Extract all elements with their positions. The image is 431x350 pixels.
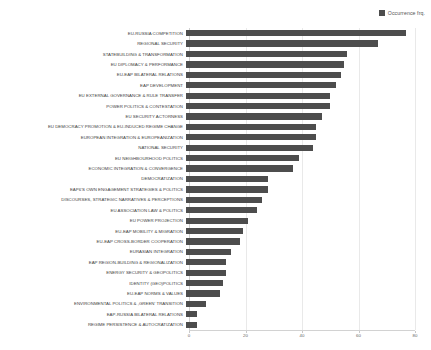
category-label: EU-EAP MOBILITY & MIGRATION: [0, 229, 186, 234]
category-label: ENVIRONMENTAL POLITICS & ,GREEN' TRANSIT…: [0, 301, 186, 306]
bar: [186, 93, 330, 99]
bar-track: [186, 122, 431, 132]
legend-label: Occurrence frq.: [388, 10, 425, 16]
bar: [186, 228, 243, 234]
category-label: EAP REGION-BUILDING & REGIONALIZATION: [0, 260, 186, 265]
category-label: EURASIAN INTEGRATION: [0, 249, 186, 254]
category-label: ENERGY SECURITY & GEOPOLITICS: [0, 270, 186, 275]
bar-track: [186, 268, 431, 278]
category-label: REGIONAL SECURITY: [0, 41, 186, 46]
plot-area: EU-RUSSIA COMPETITIONREGIONAL SECURITYST…: [0, 28, 431, 330]
bar-track: [186, 299, 431, 309]
bar-track: [186, 111, 431, 121]
x-tick-label: 40: [300, 333, 305, 339]
bar: [186, 197, 262, 203]
bar-track: [186, 320, 431, 330]
bar-row: EU POWER PROJECTION: [0, 215, 431, 225]
bar: [186, 186, 268, 192]
category-label: EAP DEVELOPMENT: [0, 83, 186, 88]
bar-track: [186, 236, 431, 246]
category-label: EU DEMOCRACY PROMOTION & EU-INDUCED REGI…: [0, 124, 186, 129]
x-tick-label: 60: [356, 333, 361, 339]
bar: [186, 30, 406, 36]
bar-row: EAP6'S OWN ENGAGEMENT STRATEGIES & POLIT…: [0, 184, 431, 194]
bar-row: NATIONAL SECURITY: [0, 143, 431, 153]
bar-row: EAP REGION-BUILDING & REGIONALIZATION: [0, 257, 431, 267]
bar-row: EU-EAP BILATERAL RELATIONS: [0, 70, 431, 80]
category-label: EU NEIGHBOURHOOD POLITICS: [0, 156, 186, 161]
category-label: NATIONAL SECURITY: [0, 145, 186, 150]
bar-track: [186, 49, 431, 59]
bar: [186, 259, 226, 265]
bar-row: EURASIAN INTEGRATION: [0, 247, 431, 257]
bar-row: EU-EAP NORMS & VALUES: [0, 288, 431, 298]
x-axis: 020406080: [189, 330, 415, 344]
bar-row: REGIME PERSISTENCE & AUTOCRATIZATION: [0, 320, 431, 330]
bar-track: [186, 195, 431, 205]
bar: [186, 176, 268, 182]
category-label: EU POWER PROJECTION: [0, 218, 186, 223]
bar-track: [186, 247, 431, 257]
legend-swatch-icon: [379, 10, 385, 16]
bar: [186, 124, 316, 130]
category-label: EU-EAP CROSS-BORDER COOPERATION: [0, 239, 186, 244]
bar-row: ECONOMIC INTEGRATION & CONVERGENCE: [0, 163, 431, 173]
bar-row: EAP-RUSSIA BILATERAL RELATIONS: [0, 309, 431, 319]
bar-track: [186, 174, 431, 184]
bar-row: EUROPEAN INTEGRATION & EUROPEANIZATION: [0, 132, 431, 142]
bar-row: EU EXTERNAL GOVERNANCE & RULE TRANSFER: [0, 90, 431, 100]
bar: [186, 207, 257, 213]
bar-row: EAP DEVELOPMENT: [0, 80, 431, 90]
bar-row: EU-RUSSIA COMPETITION: [0, 28, 431, 38]
category-label: EU-EAP NORMS & VALUES: [0, 291, 186, 296]
x-tick-label: 0: [188, 333, 190, 339]
bar: [186, 238, 240, 244]
bar-track: [186, 38, 431, 48]
bar: [186, 280, 223, 286]
category-label: POWER POLITICS & CONTESTATION: [0, 104, 186, 109]
bar: [186, 134, 316, 140]
bar-row: EU-EAP CROSS-BORDER COOPERATION: [0, 236, 431, 246]
x-tick-label: 20: [243, 333, 248, 339]
bar: [186, 145, 313, 151]
bar-track: [186, 153, 431, 163]
bar: [186, 301, 206, 307]
bar-track: [186, 59, 431, 69]
bar-track: [186, 80, 431, 90]
bar: [186, 103, 330, 109]
bar-row: STATEBUILDING & TRANSFORMATION: [0, 49, 431, 59]
bar-row: ENVIRONMENTAL POLITICS & ,GREEN' TRANSIT…: [0, 299, 431, 309]
category-label: ECONOMIC INTEGRATION & CONVERGENCE: [0, 166, 186, 171]
category-label: EUROPEAN INTEGRATION & EUROPEANIZATION: [0, 135, 186, 140]
bar-row: EU DEMOCRACY PROMOTION & EU-INDUCED REGI…: [0, 122, 431, 132]
category-label: EU ASSOCIATION LAW & POLITICS: [0, 208, 186, 213]
bar: [186, 113, 322, 119]
bar-track: [186, 184, 431, 194]
bar: [186, 82, 336, 88]
category-label: REGIME PERSISTENCE & AUTOCRATIZATION: [0, 322, 186, 327]
category-label: EU SECURITY ACTORNESS: [0, 114, 186, 119]
bar: [186, 290, 220, 296]
x-tick-label: 80: [413, 333, 418, 339]
bar-track: [186, 215, 431, 225]
bar-track: [186, 163, 431, 173]
bar: [186, 270, 226, 276]
bar: [186, 311, 197, 317]
category-label: EU EXTERNAL GOVERNANCE & RULE TRANSFER: [0, 93, 186, 98]
bar: [186, 40, 378, 46]
bar: [186, 51, 347, 57]
category-label: EAP-RUSSIA BILATERAL RELATIONS: [0, 312, 186, 317]
bar-chart-figure: Occurrence frq. EU-RUSSIA COMPETITIONREG…: [0, 0, 431, 350]
bar-row: IDENTITY (GEO)POLITICS: [0, 278, 431, 288]
bar: [186, 165, 293, 171]
category-label: IDENTITY (GEO)POLITICS: [0, 281, 186, 286]
category-label: EU-EAP BILATERAL RELATIONS: [0, 72, 186, 77]
bar-track: [186, 205, 431, 215]
bar-row: EU DIPLOMACY & PERFORMANCE: [0, 59, 431, 69]
bar-row: EU NEIGHBOURHOOD POLITICS: [0, 153, 431, 163]
bar-row: DEMOCRATIZATION: [0, 174, 431, 184]
bar-row: REGIONAL SECURITY: [0, 38, 431, 48]
bar-track: [186, 28, 431, 38]
bar: [186, 155, 299, 161]
bar-track: [186, 288, 431, 298]
